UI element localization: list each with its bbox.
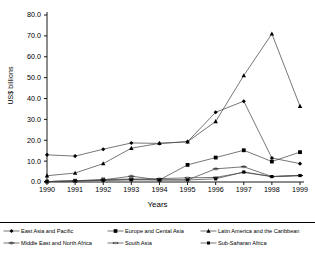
legend-marker-icon xyxy=(200,227,217,235)
legend-marker-icon xyxy=(3,227,20,235)
legend-row: East Asia and PacificEurope and Cental A… xyxy=(0,227,315,239)
legend-marker-icon xyxy=(107,227,124,235)
chart-canvas xyxy=(0,0,315,200)
legend-marker-icon xyxy=(200,239,217,247)
series-latin-america-and-the-caribbean xyxy=(45,31,302,177)
legend-row: Middle East and North AfricaSouth AsiaSu… xyxy=(0,239,315,251)
legend-label: Sub-Saharan Africa xyxy=(218,240,267,247)
chart-legend: East Asia and PacificEurope and Cental A… xyxy=(0,222,315,257)
legend-item[interactable]: Middle East and North Africa xyxy=(3,239,92,247)
legend-label: Middle East and North Africa xyxy=(21,240,92,247)
x-axis-title: Years xyxy=(0,200,315,209)
legend-label: South Asia xyxy=(125,240,152,247)
series-east-asia-and-pacific xyxy=(45,99,302,166)
legend-item[interactable]: East Asia and Pacific xyxy=(3,227,73,235)
legend-item[interactable]: Sub-Saharan Africa xyxy=(200,239,267,247)
legend-marker-icon xyxy=(3,239,20,247)
legend-marker-icon xyxy=(107,239,124,247)
legend-label: Europe and Cental Asia xyxy=(125,228,184,235)
legend-item[interactable]: Latin America and the Caribbean xyxy=(200,227,299,235)
plot-area: US$ billions 0.010.020.030.040.050.060.0… xyxy=(0,0,315,200)
line-chart: US$ billions 0.010.020.030.040.050.060.0… xyxy=(0,0,315,257)
legend-item[interactable]: South Asia xyxy=(107,239,152,247)
legend-item[interactable]: Europe and Cental Asia xyxy=(107,227,184,235)
legend-label: East Asia and Pacific xyxy=(21,228,73,235)
legend-label: Latin America and the Caribbean xyxy=(218,228,299,235)
series-middle-east-and-north-africa xyxy=(44,165,303,183)
